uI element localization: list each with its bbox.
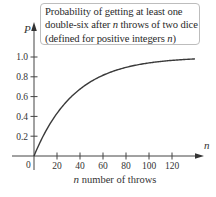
y-tick-label: 0.4 (16, 112, 28, 122)
y-tick-label: 1.0 (16, 52, 28, 62)
x-tick-label: 20 (52, 161, 62, 171)
annotation-text: Probability of getting at least one (45, 6, 182, 17)
x-axis-var-label: n (204, 139, 210, 151)
annotation-text: throws of two dice (118, 19, 198, 30)
annotation-text: double-six after (45, 19, 113, 30)
annotation-line: (defined for positive integers n) (45, 32, 199, 45)
x-axis-title: n number of throws (74, 173, 157, 185)
x-ticks: 20406080100120 (52, 153, 179, 172)
y-axis-arrow-icon (31, 22, 37, 31)
y-tick-label: 0.6 (16, 92, 28, 102)
annotation-box: Probability of getting at least onedoubl… (40, 3, 200, 45)
x-tick-label: 40 (75, 161, 85, 171)
y-tick-label: 0.2 (16, 132, 28, 142)
x-axis-arrow-icon (195, 153, 204, 159)
origin-label: 0 (26, 160, 31, 170)
annotation-text: ) (172, 33, 175, 44)
probability-curve (34, 59, 195, 156)
annotation-line: double-six after n throws of two dice (45, 18, 199, 31)
x-tick-label: 60 (98, 161, 108, 171)
x-tick-label: 80 (121, 161, 131, 171)
y-axis-label: P (23, 23, 31, 35)
x-tick-label: 100 (142, 161, 157, 171)
x-tick-label: 120 (165, 161, 180, 171)
annotation-text: (defined for positive integers (45, 33, 167, 44)
y-tick-label: 0.8 (16, 72, 28, 82)
annotation-line: Probability of getting at least one (45, 5, 199, 18)
